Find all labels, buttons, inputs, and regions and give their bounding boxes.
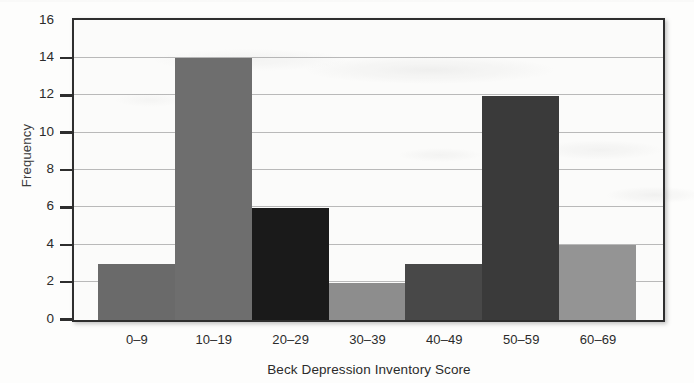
- y-tick-mark: [60, 206, 73, 209]
- histogram-bar: [329, 283, 406, 320]
- gridline: [74, 57, 663, 58]
- histogram-figure: Frequency 0 2 4 6 8 10 12 14 16 0–9 10–1…: [0, 0, 694, 383]
- y-tick-mark: [60, 318, 73, 321]
- y-tick-label-0: 0: [22, 311, 54, 326]
- y-tick-label-2: 2: [22, 273, 54, 288]
- gridline: [74, 206, 663, 207]
- y-tick-mark: [60, 131, 73, 134]
- histogram-bar: [98, 264, 175, 320]
- gridline: [74, 169, 663, 170]
- y-tick-label-10: 10: [22, 124, 54, 139]
- histogram-bar: [175, 58, 252, 320]
- y-tick-label-8: 8: [22, 161, 54, 176]
- y-tick-mark: [60, 57, 73, 60]
- x-tick-label-60-69: 60–69: [553, 332, 643, 347]
- histogram-bar: [482, 96, 559, 320]
- y-tick-label-4: 4: [22, 236, 54, 251]
- histogram-bar: [252, 208, 329, 320]
- gridline: [74, 132, 663, 133]
- y-tick-label-12: 12: [22, 86, 54, 101]
- y-tick-mark: [60, 281, 73, 284]
- plot-area: [72, 18, 665, 322]
- histogram-bar: [559, 245, 636, 320]
- y-tick-label-6: 6: [22, 198, 54, 213]
- y-tick-mark: [60, 244, 73, 247]
- histogram-bar: [405, 264, 482, 320]
- x-axis-title: Beck Depression Inventory Score: [72, 362, 666, 377]
- y-tick-label-16: 16: [22, 12, 54, 27]
- y-tick-mark: [60, 169, 73, 172]
- y-tick-mark: [60, 94, 73, 97]
- gridline: [74, 94, 663, 95]
- y-tick-label-14: 14: [22, 49, 54, 64]
